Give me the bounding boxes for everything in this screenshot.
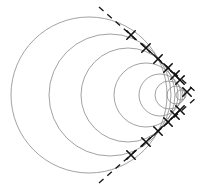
figure-container: [0, 0, 202, 191]
envelope-diagram: [0, 0, 202, 191]
figure-background: [0, 0, 202, 191]
